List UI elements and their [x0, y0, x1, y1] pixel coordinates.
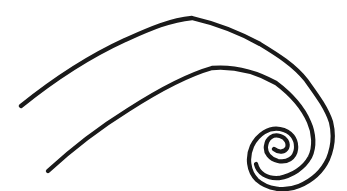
spiral-svg [0, 0, 347, 191]
drawing-background [0, 0, 347, 191]
spiral-line-drawing [0, 0, 347, 191]
